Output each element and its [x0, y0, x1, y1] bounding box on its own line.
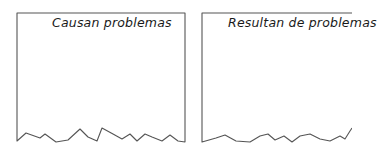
- panel-title-results: Resultan de problemas: [228, 15, 377, 30]
- panel-title-causes: Causan problemas: [52, 15, 172, 30]
- right-paper-outline: [202, 13, 352, 142]
- left-paper-outline: [17, 13, 185, 142]
